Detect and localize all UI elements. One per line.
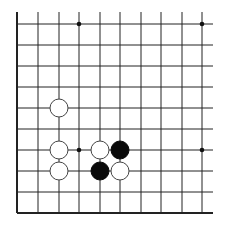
white-stone-icon	[91, 141, 109, 159]
white-stone-icon	[50, 99, 68, 117]
white-stone-icon	[50, 141, 68, 159]
star-point-icon	[200, 148, 205, 153]
star-point-icon	[77, 22, 82, 27]
white-stone-icon	[50, 162, 68, 180]
star-point-icon	[200, 22, 205, 27]
black-stone-icon	[111, 141, 129, 159]
black-stone-icon	[91, 162, 109, 180]
star-point-icon	[77, 148, 82, 153]
go-board-diagram	[0, 0, 227, 228]
white-stone-icon	[111, 162, 129, 180]
